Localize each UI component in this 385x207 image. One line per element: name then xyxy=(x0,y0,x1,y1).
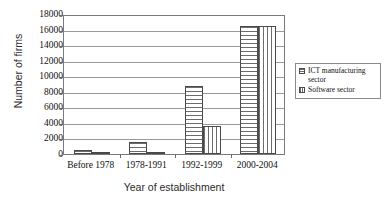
legend-item-ict-manufacturing-sector[interactable]: ICT manufacturing sector xyxy=(299,67,377,84)
legend-label-software: Software sector xyxy=(308,86,355,95)
legend-label-ict: ICT manufacturing sector xyxy=(308,67,366,84)
bar-group xyxy=(64,16,120,154)
legend-label-ict-line2: sector xyxy=(308,75,326,84)
bar[interactable] xyxy=(147,152,165,154)
y-axis-tick-label: 4000 xyxy=(7,119,63,129)
bar[interactable] xyxy=(240,26,258,154)
x-axis-tick-mark xyxy=(175,154,176,158)
bar[interactable] xyxy=(258,26,276,154)
bar-group xyxy=(120,16,176,154)
bar-group xyxy=(231,16,287,154)
y-axis-tick-label: 10000 xyxy=(7,72,63,82)
legend-item-software-sector[interactable]: Software sector xyxy=(299,86,377,95)
y-axis-tick-mark xyxy=(59,155,63,156)
bar[interactable] xyxy=(185,86,203,154)
bar-series-container xyxy=(64,16,284,154)
plot-area xyxy=(63,15,285,155)
y-axis-tick-label: 16000 xyxy=(7,26,63,36)
legend-swatch-icon-software xyxy=(299,87,305,93)
y-axis-tick-label: 14000 xyxy=(7,41,63,51)
x-axis-tick-label: 1978-1991 xyxy=(119,160,175,171)
x-axis-tick-label: Before 1978 xyxy=(63,160,119,171)
x-axis-tick-mark xyxy=(231,154,232,158)
y-axis-tick-label: 18000 xyxy=(7,10,63,20)
x-axis-tick-label: 1992-1999 xyxy=(174,160,230,171)
bar[interactable] xyxy=(203,126,221,154)
bar[interactable] xyxy=(74,150,92,154)
bar-chart: Number of firms 180001600014000120001000… xyxy=(0,0,385,207)
bar-group xyxy=(175,16,231,154)
x-axis-tick-label: 2000-2004 xyxy=(230,160,286,171)
x-axis-tick-mark xyxy=(120,154,121,158)
bar[interactable] xyxy=(92,152,110,154)
legend-swatch-icon-ict xyxy=(299,68,305,74)
y-axis-tick-label: 12000 xyxy=(7,57,63,67)
x-axis-title: Year of establishment xyxy=(63,181,285,193)
bar[interactable] xyxy=(129,142,147,154)
y-axis-tick-label: 8000 xyxy=(7,88,63,98)
y-axis-tick-label: 2000 xyxy=(7,134,63,144)
legend: ICT manufacturing sector Software sector xyxy=(295,63,381,99)
y-axis-tick-label: 0 xyxy=(7,150,63,160)
y-axis-tick-label: 6000 xyxy=(7,103,63,113)
